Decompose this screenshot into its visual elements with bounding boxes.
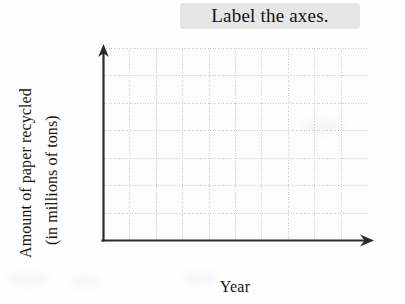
y-axis-label-line-2: (in millions of tons) bbox=[43, 115, 61, 245]
grid bbox=[103, 48, 367, 240]
plot-area bbox=[103, 48, 367, 240]
x-axis-label: Year bbox=[103, 278, 367, 296]
worksheet-page: Label the axes. Amount of paper recycled… bbox=[0, 0, 405, 304]
paper-artifact bbox=[70, 276, 100, 288]
y-axis-label-line-1: Amount of paper recycled bbox=[17, 88, 35, 258]
paper-artifact bbox=[8, 272, 48, 286]
instruction-text: Label the axes. bbox=[180, 3, 360, 29]
